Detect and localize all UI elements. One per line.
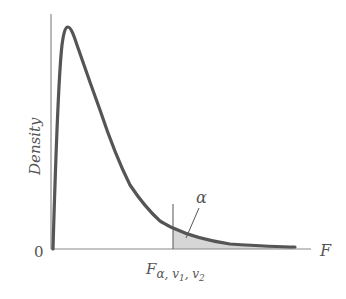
alpha-leader-line [186,208,199,238]
y-axis-label: Density [26,117,44,176]
alpha-label: α [196,188,207,207]
critical-value-label: Fα, v1, v2 [145,260,205,283]
x-axis-label: F [319,241,332,260]
density-curve [53,27,295,249]
f-distribution-chart: α F 0 Density Fα, v1, v2 [0,0,346,299]
origin-label: 0 [34,243,44,261]
